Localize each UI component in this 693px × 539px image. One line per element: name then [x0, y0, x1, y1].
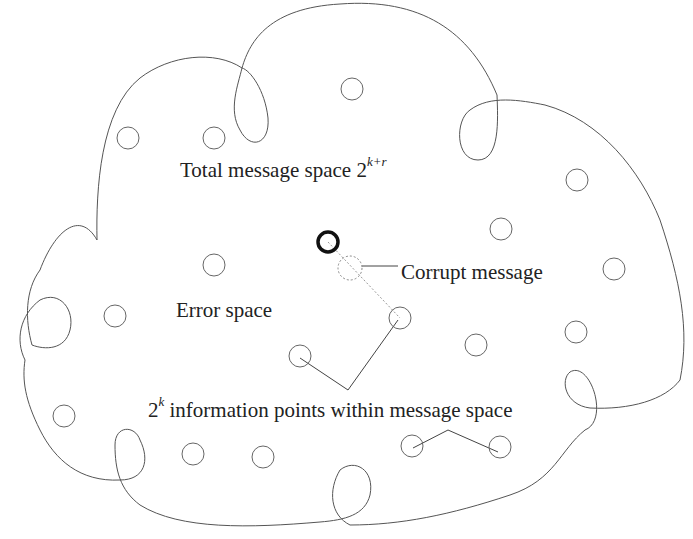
information-point: [565, 321, 587, 343]
info-points-exponent: k: [159, 394, 165, 409]
message-space-diagram: [0, 0, 693, 539]
total-space-exponent: k+r: [367, 154, 387, 169]
total-space-label: Total message space 2k+r: [180, 158, 387, 181]
information-point: [104, 305, 126, 327]
total-space-text: Total message space 2: [180, 158, 367, 182]
info-points-base: 2: [148, 398, 159, 422]
information-point: [252, 446, 274, 468]
information-point: [465, 334, 487, 356]
corrupt-path-line: [328, 242, 400, 318]
info-points-label: 2k information points within message spa…: [148, 398, 512, 421]
information-point: [289, 345, 311, 367]
information-point: [341, 78, 363, 100]
information-point: [603, 258, 625, 280]
corrupt-message-label: Corrupt message: [401, 262, 543, 283]
information-point: [489, 436, 511, 458]
information-point: [490, 218, 512, 240]
information-point: [182, 443, 204, 465]
info-points-leader-1: [300, 320, 398, 390]
corrupt-message-point: [338, 256, 362, 280]
information-point: [53, 405, 75, 427]
information-point: [117, 127, 139, 149]
information-point: [203, 127, 225, 149]
info-points-text: information points within message space: [164, 398, 512, 422]
information-point: [566, 169, 588, 191]
information-point: [401, 435, 423, 457]
information-point: [203, 254, 225, 276]
message-space-outline: [20, 3, 684, 526]
error-space-label: Error space: [176, 300, 272, 321]
info-points-leader-2: [413, 430, 498, 452]
